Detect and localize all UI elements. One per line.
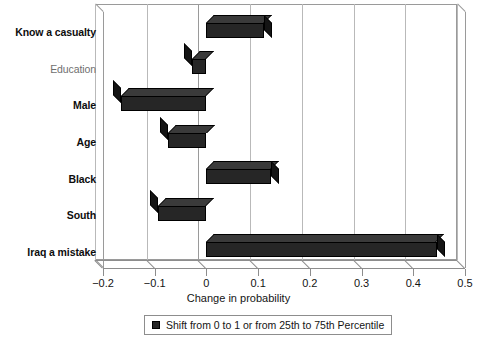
bar-top-face <box>158 198 214 206</box>
category-label-male: Male <box>0 99 96 111</box>
x-tick-3 <box>258 269 259 276</box>
bar-chart: Know a casualtyEducationMaleAgeBlackSout… <box>0 0 477 346</box>
bar-top-face <box>168 125 215 133</box>
x-tick-6 <box>413 269 414 276</box>
x-axis-line <box>103 268 465 269</box>
bar-male <box>121 96 206 111</box>
x-tick-5 <box>362 269 363 276</box>
chart-legend: Shift from 0 to 1 or from 25th to 75th P… <box>144 315 392 335</box>
bar-know-a-casualty <box>206 23 264 38</box>
category-label-black: Black <box>0 173 96 185</box>
x-tick-0 <box>103 269 104 276</box>
x-tick-4 <box>310 269 311 276</box>
bar-top-face <box>121 88 214 96</box>
x-tick-label-1: −0.1 <box>144 277 166 289</box>
x-tick-1 <box>155 269 156 276</box>
gridline-0.4 <box>405 4 406 260</box>
plot-frame-left <box>103 12 104 268</box>
bar-education <box>192 59 206 74</box>
bar-top-face <box>206 15 272 23</box>
x-tick-label-3: 0.1 <box>250 277 265 289</box>
category-label-know-a-casualty: Know a casualty <box>0 26 96 38</box>
gridline-0.3 <box>354 4 355 260</box>
gridline-0.2 <box>302 4 303 260</box>
category-label-south: South <box>0 209 96 221</box>
category-label-education: Education <box>0 63 96 75</box>
bar-age <box>168 133 207 148</box>
bar-black <box>206 169 271 184</box>
x-axis-title: Change in probability <box>0 292 477 304</box>
x-tick-label-0: −0.2 <box>92 277 114 289</box>
gridline-0.5 <box>457 4 458 260</box>
bar-top-face <box>206 234 444 242</box>
plot-area-backplane <box>95 4 457 260</box>
x-tick-label-7: 0.5 <box>457 277 472 289</box>
bar-iraq-a-mistake <box>206 242 436 257</box>
x-tick-label-5: 0.3 <box>354 277 369 289</box>
gridline-0.1 <box>250 4 251 260</box>
x-tick-label-2: 0 <box>203 277 209 289</box>
bar-top-face <box>206 161 279 169</box>
category-label-age: Age <box>0 136 96 148</box>
x-tick-label-4: 0.2 <box>302 277 317 289</box>
gridline-neg0.2 <box>95 4 96 260</box>
category-label-iraq-a-mistake: Iraq a mistake <box>0 246 96 258</box>
legend-label: Shift from 0 to 1 or from 25th to 75th P… <box>166 319 384 331</box>
legend-swatch <box>152 321 160 329</box>
bar-south <box>158 206 206 221</box>
x-axis-line-back <box>95 260 457 261</box>
x-tick-7 <box>465 269 466 276</box>
x-tick-2 <box>206 269 207 276</box>
plot-frame-right <box>465 12 466 268</box>
x-tick-label-6: 0.4 <box>406 277 421 289</box>
plot-depth-edge-1 <box>457 3 466 12</box>
gridline-neg0.1 <box>147 4 148 260</box>
